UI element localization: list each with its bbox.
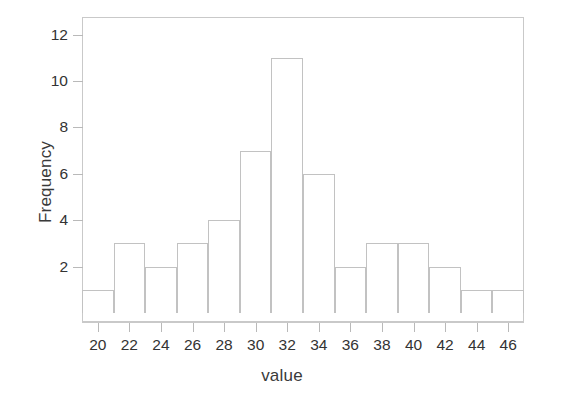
histogram-bar [114, 243, 146, 313]
histogram-figure: Frequency 24681012 202224262830323436384… [0, 0, 564, 416]
x-axis-tick [350, 323, 351, 332]
bars-layer [82, 17, 524, 322]
histogram-bar [82, 290, 114, 313]
y-axis-tick-label: 2 [28, 259, 68, 275]
x-axis-tick [445, 323, 446, 332]
y-axis-tick [73, 220, 83, 221]
y-axis-tick [73, 127, 83, 128]
x-axis-tick [256, 323, 257, 332]
histogram-bar [398, 243, 430, 313]
x-axis-tick [382, 323, 383, 332]
histogram-bar [208, 220, 240, 313]
histogram-bar [335, 267, 367, 313]
y-axis-tick-label: 12 [28, 27, 68, 43]
x-axis-tick [508, 323, 509, 332]
x-axis-tick [98, 323, 99, 332]
x-axis-tick [287, 323, 288, 332]
histogram-bar [429, 267, 461, 313]
x-axis-tick [129, 323, 130, 332]
y-axis-tick [73, 174, 83, 175]
x-axis-tick [477, 323, 478, 332]
x-axis-tick [319, 323, 320, 332]
x-axis-spine [82, 322, 524, 323]
histogram-bar [366, 243, 398, 313]
histogram-bar [240, 151, 272, 313]
y-axis-tick-label: 4 [28, 212, 68, 228]
y-axis-tick-label: 8 [28, 119, 68, 135]
histogram-bar [492, 290, 524, 313]
x-axis-title: value [0, 366, 564, 386]
x-axis-tick [224, 323, 225, 332]
x-axis-tick [414, 323, 415, 332]
histogram-bar [271, 58, 303, 313]
y-axis-tick [73, 81, 83, 82]
x-axis-tick [161, 323, 162, 332]
x-axis-tick [193, 323, 194, 332]
y-axis-tick [73, 35, 83, 36]
histogram-bar [145, 267, 177, 313]
y-axis-tick-label: 10 [28, 73, 68, 89]
y-axis-tick-label: 6 [28, 166, 68, 182]
histogram-bar [303, 174, 335, 313]
histogram-bar [177, 243, 209, 313]
histogram-bar [461, 290, 493, 313]
y-axis-tick [73, 267, 83, 268]
x-axis-tick-label: 46 [488, 337, 528, 353]
